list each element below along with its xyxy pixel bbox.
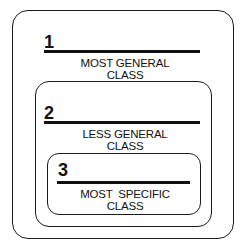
class-rule-2 [44,121,200,124]
class-label-1: MOST GENERAL CLASS [60,57,190,81]
class-label-2-line1: LESS GENERAL [60,128,190,140]
class-label-3: MOST SPECIFIC CLASS [60,188,190,212]
class-label-2: LESS GENERAL CLASS [60,128,190,152]
class-label-1-line2: CLASS [60,69,190,81]
class-label-1-line1: MOST GENERAL [60,57,190,69]
class-rule-3 [57,181,190,184]
class-rule-1 [44,50,200,53]
class-number-3: 3 [58,161,68,179]
class-label-3-line2: CLASS [60,200,190,212]
class-number-2: 2 [44,104,54,122]
class-label-2-line2: CLASS [60,140,190,152]
class-number-1: 1 [44,33,54,51]
class-label-3-line1: MOST SPECIFIC [60,188,190,200]
